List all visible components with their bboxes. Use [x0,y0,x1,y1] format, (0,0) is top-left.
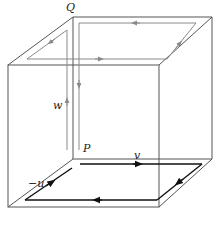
top-face-loop [27,23,196,150]
label-w: w [53,100,62,111]
bottom-face-loop [25,164,202,200]
neg-u-arrow [46,182,52,186]
label-P: P [83,143,90,154]
label-Q: Q [66,2,75,13]
label-v: v [134,150,140,161]
label-neg-u: −u [28,178,44,189]
cube-diagram [0,0,219,225]
